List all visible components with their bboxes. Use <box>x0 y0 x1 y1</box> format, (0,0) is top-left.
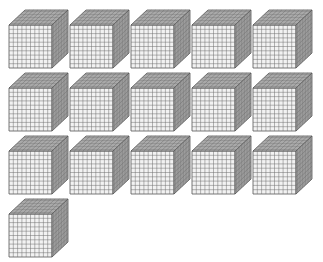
thousand-cube-icon <box>8 135 70 197</box>
thousand-cube-icon <box>130 9 192 71</box>
thousand-cube-icon <box>8 72 70 134</box>
thousand-cube-icon <box>252 9 314 71</box>
thousand-cube-icon <box>252 72 314 134</box>
thousand-cube-icon <box>252 135 314 197</box>
thousand-cube-icon <box>69 135 131 197</box>
thousand-cube-icon <box>8 198 70 260</box>
thousand-cube-icon <box>191 9 253 71</box>
thousand-cube-icon <box>69 9 131 71</box>
thousand-cube-icon <box>191 72 253 134</box>
thousand-cube-icon <box>191 135 253 197</box>
thousand-cube-icon <box>130 135 192 197</box>
thousand-cube-icon <box>130 72 192 134</box>
thousand-cube-icon <box>69 72 131 134</box>
thousand-cube-icon <box>8 9 70 71</box>
